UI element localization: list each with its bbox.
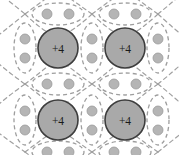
valence-electron-dot: [153, 34, 163, 44]
valence-electron-dot: [42, 9, 52, 19]
valence-electron-dot: [131, 79, 141, 89]
atom-core-charge-label: +4: [52, 43, 64, 55]
valence-electron-dot: [20, 106, 30, 116]
atom-core: +4: [38, 28, 78, 68]
valence-electron-dot: [87, 106, 97, 116]
valence-electron-dot: [64, 147, 74, 155]
atom-core: +4: [105, 28, 145, 68]
valence-electron-dot: [64, 9, 74, 19]
atom-core: +4: [105, 100, 145, 140]
valence-electron-dot: [20, 34, 30, 44]
valence-electron-dot: [153, 125, 163, 135]
valence-electron-dot: [20, 125, 30, 135]
valence-electron-dot: [42, 147, 52, 155]
valence-electron-dot: [109, 79, 119, 89]
atom-core: +4: [38, 100, 78, 140]
atom-core-charge-label: +4: [52, 115, 64, 127]
valence-electron-dot: [109, 9, 119, 19]
crystal-lattice-figure: +4+4+4+4: [0, 0, 179, 155]
valence-electron-dot: [87, 125, 97, 135]
valence-electron-dot: [64, 79, 74, 89]
valence-electron-dot: [153, 106, 163, 116]
valence-electron-dot: [87, 34, 97, 44]
lattice-canvas: +4+4+4+4: [0, 0, 179, 155]
valence-electron-dot: [131, 9, 141, 19]
valence-electron-dot: [20, 53, 30, 63]
valence-electron-dot: [153, 53, 163, 63]
atom-core-charge-label: +4: [119, 115, 131, 127]
valence-electron-dot: [131, 147, 141, 155]
valence-electron-dot: [42, 79, 52, 89]
valence-electron-dot: [109, 147, 119, 155]
atom-core-charge-label: +4: [119, 43, 131, 55]
valence-electron-dot: [87, 53, 97, 63]
